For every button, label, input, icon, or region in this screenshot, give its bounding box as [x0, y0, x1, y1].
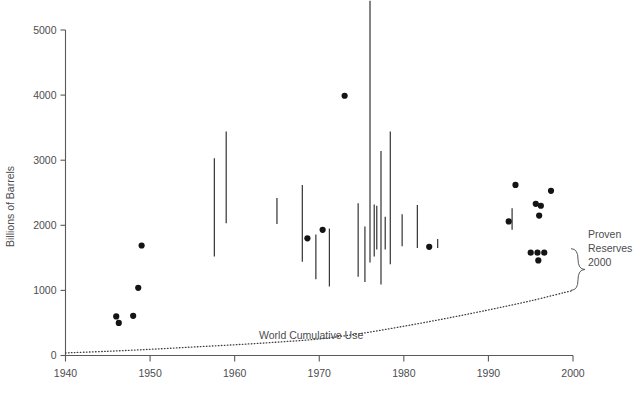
scatter-point [342, 93, 348, 99]
x-tick-label: 1940 [54, 367, 78, 379]
scatter-point [534, 250, 540, 256]
y-axis-ticks: 010002000300040005000 [33, 24, 65, 362]
chart-canvas: 010002000300040005000 194019501960197019… [0, 0, 641, 395]
x-tick-label: 1950 [138, 367, 162, 379]
scatter-point [512, 182, 518, 188]
proven-reserves-brace [571, 249, 585, 291]
world-cumulative-use-label: World Cumulative Use [259, 329, 363, 341]
scatter-point [304, 235, 310, 241]
scatter-point [139, 242, 145, 248]
proven-reserves-line-3: 2000 [588, 256, 612, 268]
x-tick-label: 1960 [223, 367, 247, 379]
axes-group [66, 30, 574, 356]
scatter-point [113, 313, 119, 319]
scatter-point [536, 212, 542, 218]
y-tick-label: 5000 [33, 24, 57, 36]
scatter-point [506, 218, 512, 224]
y-tick-label: 2000 [33, 219, 57, 231]
y-tick-label: 1000 [33, 284, 57, 296]
world-cumulative-use-curve [66, 290, 574, 353]
scatter-points-group [113, 93, 554, 326]
scatter-point [528, 250, 534, 256]
chart-figure: 010002000300040005000 194019501960197019… [0, 0, 641, 395]
y-tick-label: 0 [51, 349, 57, 361]
scatter-point [538, 203, 544, 209]
scatter-point [541, 250, 547, 256]
x-axis-ticks: 1940195019601970198019902000 [54, 356, 585, 379]
proven-reserves-line-2: Reserves [588, 242, 632, 254]
scatter-point [135, 285, 141, 291]
range-bars-group [214, 1, 512, 287]
scatter-point [130, 313, 136, 319]
y-axis-title: Billions of Barrels [4, 166, 16, 247]
scatter-point [320, 227, 326, 233]
scatter-point [548, 188, 554, 194]
x-tick-label: 1970 [308, 367, 332, 379]
x-tick-label: 1990 [477, 367, 501, 379]
proven-reserves-line-1: Proven [588, 228, 621, 240]
scatter-point [116, 320, 122, 326]
x-tick-label: 1980 [392, 367, 416, 379]
scatter-point [426, 244, 432, 250]
y-tick-label: 4000 [33, 89, 57, 101]
x-tick-label: 2000 [561, 367, 585, 379]
scatter-point [535, 257, 541, 263]
y-tick-label: 3000 [33, 154, 57, 166]
